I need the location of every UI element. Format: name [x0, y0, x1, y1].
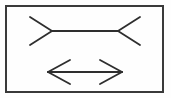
- muller-lyer-figure: [0, 0, 171, 98]
- figure-canvas: [0, 0, 171, 98]
- figure-background: [0, 0, 171, 98]
